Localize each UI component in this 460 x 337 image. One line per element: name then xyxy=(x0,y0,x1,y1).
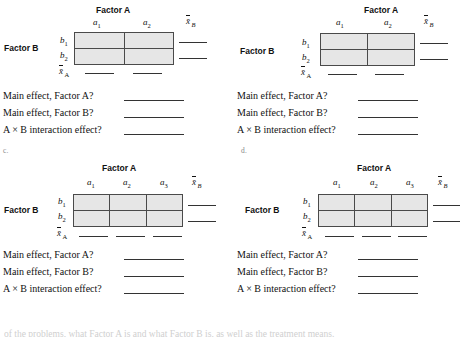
panel-b-cell-a1b2[interactable] xyxy=(321,50,367,65)
footer-partial-text: of the problems, what Factor A is and wh… xyxy=(4,329,456,337)
panel-b-question-main-effect-a: Main effect, Factor A? xyxy=(237,90,327,101)
panel-d-cell-a2b2[interactable] xyxy=(354,211,390,226)
panel-d: d. Factor A a1 a2 a3 x̄B Factor B b1 b2 … xyxy=(230,145,460,313)
panel-b-data-grid[interactable] xyxy=(320,33,415,66)
panel-c-cell-a1b1[interactable] xyxy=(74,195,109,210)
panel-c-question-main-effect-a: Main effect, Factor A? xyxy=(3,249,93,260)
panel-c-cell-a2b1[interactable] xyxy=(109,195,145,210)
panel-c-answer-blank-main-effect-a[interactable] xyxy=(124,259,184,260)
panel-a-col-label-a1: a1 xyxy=(93,17,101,29)
panel-a-rowmean-blank-b2[interactable] xyxy=(179,58,207,59)
panel-c-cell-a2b2[interactable] xyxy=(109,211,145,226)
panel-d-cell-a3b2[interactable] xyxy=(391,211,427,226)
panel-d-rowmean-blank-b2[interactable] xyxy=(433,221,460,222)
panel-b-question-interaction: A × B interaction effect? xyxy=(237,124,336,135)
panel-b-col-label-a1: a1 xyxy=(336,17,344,29)
panel-a-colmean-blank-a2[interactable] xyxy=(133,73,162,74)
panel-a-colmean-blank-a1[interactable] xyxy=(85,73,114,74)
panel-b-col-label-a2: a2 xyxy=(384,17,392,29)
panel-b-grid-row-b1 xyxy=(321,34,414,49)
panel-b-cell-a2b2[interactable] xyxy=(367,50,414,65)
panel-c: c. Factor A a1 a2 a3 x̄B Factor B b1 b2 … xyxy=(0,145,230,313)
panel-a-factor-b-title: Factor B xyxy=(4,43,38,53)
panel-c-colmean-blank-a1[interactable] xyxy=(79,236,108,237)
panel-c-row-label-b2: b2 xyxy=(58,211,66,223)
panel-a-answer-blank-main-effect-a[interactable] xyxy=(124,100,184,101)
panel-c-letter: c. xyxy=(3,146,9,155)
panel-d-row-label-b1: b1 xyxy=(303,196,311,208)
panel-d-question-main-effect-a: Main effect, Factor A? xyxy=(237,249,327,260)
panel-b-xbar-a-label: x̄A xyxy=(301,67,310,77)
panel-d-rowmean-blank-b1[interactable] xyxy=(433,205,460,206)
panel-a-data-grid[interactable] xyxy=(74,32,174,65)
panel-a-cell-a2b2[interactable] xyxy=(124,49,174,64)
panel-b-answer-blank-interaction[interactable] xyxy=(358,134,418,135)
panel-b-xbar-b-label: x̄B xyxy=(424,16,432,26)
panel-d-cell-a1b2[interactable] xyxy=(319,211,354,226)
panel-b-answer-blank-main-effect-a[interactable] xyxy=(358,100,418,101)
panel-d-data-grid[interactable] xyxy=(318,194,428,227)
panel-c-cell-a3b2[interactable] xyxy=(146,211,182,226)
panel-c-xbar-a-label: x̄A xyxy=(57,228,66,238)
panel-c-rowmean-blank-b1[interactable] xyxy=(188,205,216,206)
panel-a-cell-a2b1[interactable] xyxy=(124,33,174,48)
panel-a-answer-blank-interaction[interactable] xyxy=(124,134,184,135)
panel-a-answer-blank-main-effect-b[interactable] xyxy=(124,117,184,118)
panel-d-cell-a2b1[interactable] xyxy=(354,195,390,210)
panel-b-rowmean-blank-b1[interactable] xyxy=(420,43,448,44)
panel-c-col-label-a3: a3 xyxy=(160,177,168,189)
panel-c-question-interaction: A × B interaction effect? xyxy=(3,283,102,294)
panel-d-col-label-a3: a3 xyxy=(406,177,414,189)
panel-c-col-label-a2: a2 xyxy=(123,177,131,189)
panel-b-rowmean-blank-b2[interactable] xyxy=(420,59,448,60)
panel-c-col-label-a1: a1 xyxy=(87,177,95,189)
panel-d-factor-a-title: Factor A xyxy=(357,163,391,173)
panel-b-cell-a2b1[interactable] xyxy=(367,34,414,49)
panel-a-question-main-effect-b: Main effect, Factor B? xyxy=(3,107,93,118)
panel-c-rowmean-blank-b2[interactable] xyxy=(188,221,216,222)
panel-d-answer-blank-main-effect-b[interactable] xyxy=(358,276,418,277)
panel-a-cell-a1b1[interactable] xyxy=(75,33,124,48)
worksheet-page: { "page": { "background": "#ffffff", "ce… xyxy=(0,0,460,337)
panel-d-cell-a1b1[interactable] xyxy=(319,195,354,210)
panel-d-col-label-a1: a1 xyxy=(333,177,341,189)
panel-b-colmean-blank-a1[interactable] xyxy=(328,74,357,75)
panel-c-question-main-effect-b: Main effect, Factor B? xyxy=(3,266,93,277)
panel-c-colmean-blank-a2[interactable] xyxy=(116,236,145,237)
panel-d-colmean-blank-a3[interactable] xyxy=(398,236,427,237)
panel-a-xbar-b-label: x̄B xyxy=(186,16,194,26)
panel-b-factor-b-title: Factor B xyxy=(240,46,274,56)
panel-d-grid-row-b1 xyxy=(319,195,427,210)
panel-b-question-main-effect-b: Main effect, Factor B? xyxy=(237,107,327,118)
panel-c-factor-a-title: Factor A xyxy=(102,163,136,173)
panel-d-answer-blank-interaction[interactable] xyxy=(358,293,418,294)
panel-d-row-label-b2: b2 xyxy=(303,211,311,223)
panel-d-cell-a3b1[interactable] xyxy=(391,195,427,210)
panel-a-grid-row-b2 xyxy=(75,48,173,64)
panel-a-rowmean-blank-b1[interactable] xyxy=(179,42,207,43)
panel-c-cell-a3b1[interactable] xyxy=(146,195,182,210)
panel-b-cell-a1b1[interactable] xyxy=(321,34,367,49)
panel-d-grid-row-b2 xyxy=(319,210,427,226)
panel-b-grid-row-b2 xyxy=(321,49,414,65)
panel-b-row-label-b2: b2 xyxy=(302,52,310,64)
panel-c-factor-b-title: Factor B xyxy=(4,205,38,215)
panel-c-xbar-b-label: x̄B xyxy=(192,177,200,187)
panel-c-colmean-blank-a3[interactable] xyxy=(153,236,182,237)
panel-d-question-main-effect-b: Main effect, Factor B? xyxy=(237,266,327,277)
panel-c-grid-row-b1 xyxy=(74,195,182,210)
panel-c-answer-blank-main-effect-b[interactable] xyxy=(124,276,184,277)
panel-d-colmean-blank-a1[interactable] xyxy=(325,236,354,237)
panel-d-question-interaction: A × B interaction effect? xyxy=(237,283,336,294)
panel-a-xbar-a-label: x̄A xyxy=(59,66,68,76)
panel-c-data-grid[interactable] xyxy=(73,194,183,227)
panel-a-col-label-a2: a2 xyxy=(143,17,151,29)
panel-d-answer-blank-main-effect-a[interactable] xyxy=(358,259,418,260)
panel-a-grid-row-b1 xyxy=(75,33,173,48)
panel-b-answer-blank-main-effect-b[interactable] xyxy=(358,117,418,118)
panel-b-colmean-blank-a2[interactable] xyxy=(375,74,404,75)
panel-c-answer-blank-interaction[interactable] xyxy=(124,293,184,294)
panel-c-cell-a1b2[interactable] xyxy=(74,211,109,226)
panel-a-cell-a1b2[interactable] xyxy=(75,49,124,64)
panel-d-colmean-blank-a2[interactable] xyxy=(362,236,391,237)
